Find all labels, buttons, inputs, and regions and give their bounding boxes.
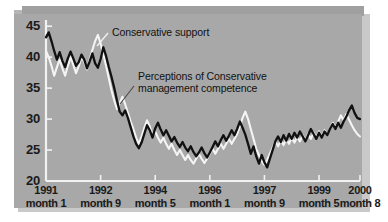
x-tick-month-label: month 9 (72, 197, 130, 209)
x-tick-year-label: 2000 (334, 184, 386, 196)
x-tick-month-label: month 9 (235, 197, 293, 209)
x-tick-year-label: 1991 (20, 184, 72, 196)
x-tick-month-label: month 8 (331, 197, 388, 209)
x-tick-year-label: 1992 (75, 184, 127, 196)
annotation-conservative-support: Conservative support (112, 26, 209, 38)
x-tick-year-label: 1996 (184, 184, 236, 196)
x-tick-month-label: month 1 (181, 197, 239, 209)
chart-series-group (46, 32, 360, 167)
annotation-perceptions-of-competence: Perceptions of Conservative management c… (138, 70, 267, 94)
y-tick-label: 35 (14, 80, 40, 95)
y-tick-label: 30 (14, 111, 40, 126)
leader-line-perceptions-of-competence (120, 86, 134, 104)
x-tick-month-label: month 1 (17, 197, 75, 209)
x-tick-month-label: month 5 (126, 197, 184, 209)
y-tick-label: 40 (14, 49, 40, 64)
y-tick-label: 45 (14, 18, 40, 33)
series-line-conservative-support (46, 32, 360, 167)
chart-figure: 202530354045 1991month 11992month 91994m… (0, 0, 388, 222)
y-tick-label: 25 (14, 142, 40, 157)
x-tick-year-label: 1994 (129, 184, 181, 196)
x-tick-year-label: 1997 (238, 184, 290, 196)
